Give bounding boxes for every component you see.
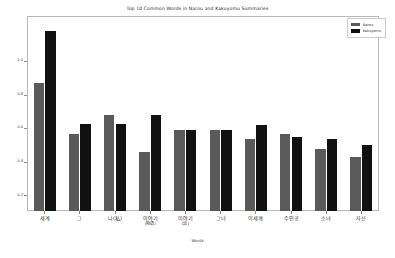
x-tick-mark [220, 211, 221, 214]
y-tick-label: 0.4 [1, 159, 23, 163]
bar-kakuyomu [45, 31, 56, 211]
bar-group [27, 16, 62, 211]
bar-kakuyomu [256, 125, 267, 211]
bar-kakuyomu [292, 137, 303, 211]
bar-group [133, 16, 168, 211]
x-tick-mark [361, 211, 362, 214]
legend-entry: Narou [351, 22, 381, 28]
bar-kakuyomu [327, 139, 338, 211]
chart-legend: NarouKakuyomu [347, 18, 386, 38]
x-tick-mark [44, 211, 45, 214]
bar-narou [245, 139, 256, 211]
bar-narou [34, 83, 45, 211]
legend-swatch-kakuyomu [351, 29, 360, 33]
bar-group [97, 16, 132, 211]
bar-group [344, 16, 379, 211]
bar-group [273, 16, 308, 211]
x-tick-mark [150, 211, 151, 214]
x-tick-label-sub: (話) [158, 221, 212, 227]
y-tick-label: 1.0 [1, 58, 23, 62]
bar-group [168, 16, 203, 211]
legend-label: Narou [363, 23, 374, 27]
bar-narou [350, 157, 361, 211]
x-axis-label: Words [0, 238, 395, 243]
bar-group [309, 16, 344, 211]
x-tick-mark [115, 211, 116, 214]
chart-figure: Top 10 Common Words in Narou and Kakuyom… [0, 0, 395, 258]
y-tick-label: 0.6 [1, 125, 23, 129]
bar-kakuyomu [362, 145, 373, 211]
x-tick-mark [255, 211, 256, 214]
bar-narou [104, 115, 115, 211]
x-tick-mark [79, 211, 80, 214]
bar-group [62, 16, 97, 211]
y-tick-label: 0.2 [1, 193, 23, 197]
bar-narou [139, 152, 150, 211]
x-tick-label: 자신 [334, 215, 388, 221]
bar-narou [69, 134, 80, 211]
bar-group [238, 16, 273, 211]
x-tick-mark [326, 211, 327, 214]
bar-kakuyomu [186, 130, 197, 211]
bar-kakuyomu [116, 124, 127, 211]
chart-title: Top 10 Common Words in Narou and Kakuyom… [0, 6, 395, 11]
legend-label: Kakuyomu [363, 29, 381, 33]
y-tick-label: 0.8 [1, 92, 23, 96]
legend-entry: Kakuyomu [351, 28, 381, 34]
bar-narou [174, 130, 185, 211]
bar-narou [315, 149, 326, 211]
x-tick-mark [291, 211, 292, 214]
x-tick-mark [185, 211, 186, 214]
bar-kakuyomu [221, 130, 232, 211]
bar-narou [210, 130, 221, 211]
bar-kakuyomu [151, 115, 162, 211]
bar-group [203, 16, 238, 211]
bar-narou [280, 134, 291, 211]
bar-kakuyomu [80, 124, 91, 211]
bar-series-container [27, 16, 379, 211]
legend-swatch-narou [351, 23, 360, 27]
